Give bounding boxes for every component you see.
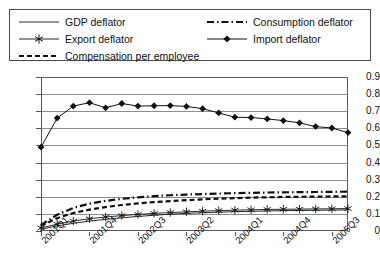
y-tick-mark	[36, 180, 41, 181]
gridline	[42, 145, 347, 146]
y-tick-mark	[36, 197, 41, 198]
legend-label-compensation-per-employee: Compensation per employee	[65, 51, 199, 62]
gridline	[42, 128, 347, 129]
legend-label-export-deflator: Export deflator	[65, 34, 133, 45]
gridline	[42, 94, 347, 95]
y-tick-mark	[36, 214, 41, 215]
legend-label-consumption-deflator: Consumption deflator	[253, 17, 353, 28]
legend-entry-consumption-deflator: Consumption deflator	[206, 15, 353, 29]
y-tick-mark	[36, 77, 41, 78]
chart-page: GDP deflator Export deflator Compensatio…	[0, 0, 380, 279]
y-tick-mark	[36, 163, 41, 164]
legend-swatch-consumption-deflator	[206, 16, 248, 28]
plot-area	[41, 77, 348, 231]
y-tick-label: 0.3	[346, 175, 380, 185]
y-tick-label: 0.4	[346, 158, 380, 168]
y-tick-label: 0.8	[346, 89, 380, 99]
legend-entry-export-deflator: Export deflator	[18, 32, 133, 46]
y-tick-mark	[36, 128, 41, 129]
y-tick-label: 0.7	[346, 106, 380, 116]
y-tick-mark	[36, 111, 41, 112]
gridline	[42, 163, 347, 164]
gridline	[42, 197, 347, 198]
legend-swatch-import-deflator	[206, 33, 248, 45]
legend-swatch-export-deflator	[18, 33, 60, 45]
y-axis-line	[41, 77, 42, 232]
gridline	[42, 214, 347, 215]
y-tick-label: 0.2	[346, 192, 380, 202]
y-tick-mark	[36, 94, 41, 95]
legend-entry-import-deflator: Import deflator	[206, 32, 321, 46]
legend-swatch-compensation-per-employee	[18, 50, 60, 62]
legend-entry-gdp-deflator: GDP deflator	[18, 15, 126, 29]
y-tick-label: 0.5	[346, 140, 380, 150]
gridline	[42, 111, 347, 112]
gridline	[42, 180, 347, 181]
legend-swatch-gdp-deflator	[18, 16, 60, 28]
legend-label-gdp-deflator: GDP deflator	[65, 17, 126, 28]
legend-entry-compensation-per-employee: Compensation per employee	[18, 49, 199, 63]
y-tick-mark	[36, 145, 41, 146]
legend-label-import-deflator: Import deflator	[253, 34, 321, 45]
chart-legend: GDP deflator Export deflator Compensatio…	[9, 9, 371, 61]
y-tick-label: 0.6	[346, 123, 380, 133]
y-tick-label: 0.9	[346, 72, 380, 82]
